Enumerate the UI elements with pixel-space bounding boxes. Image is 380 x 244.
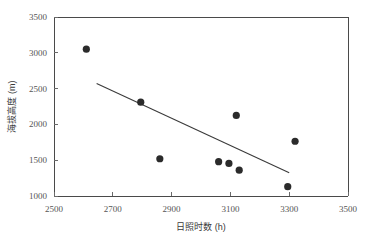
chart-canvas: 250027002900310033003500 100015002000250… [0,0,380,244]
x-tick-label: 2700 [104,204,123,214]
data-point [233,112,240,119]
x-tick-label: 2500 [45,204,64,214]
tick-marks [54,17,348,196]
data-points [83,46,299,191]
axes [54,17,348,196]
x-tick-label: 2900 [163,204,182,214]
y-axis-tick-labels: 100015002000250030003500 [29,12,48,201]
y-tick-label: 3500 [29,12,48,22]
y-tick-label: 1500 [29,155,48,165]
y-tick-label: 2000 [29,119,48,129]
data-point [236,167,243,174]
x-tick-label: 3100 [221,204,240,214]
scatter-chart: 250027002900310033003500 100015002000250… [0,0,380,244]
y-tick-label: 2500 [29,84,48,94]
data-point [291,138,298,145]
data-point [215,158,222,165]
data-point [83,46,90,53]
y-tick-label: 3000 [29,48,48,58]
x-axis-tick-labels: 250027002900310033003500 [45,204,358,214]
y-axis-title: 海拔高度 (m) [6,81,17,133]
x-tick-label: 3300 [280,204,299,214]
regression-line [97,84,290,173]
data-point [284,183,291,190]
data-point [137,99,144,106]
y-tick-label: 1000 [29,191,48,201]
data-point [156,155,163,162]
x-tick-label: 3500 [339,204,358,214]
axis-frame [54,17,348,196]
data-point [225,160,232,167]
x-axis-title: 日照时数 (h) [176,221,226,232]
trend-line [97,84,290,173]
